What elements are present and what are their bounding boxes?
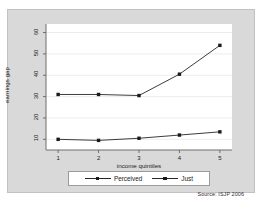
x-tick-label: 4 <box>172 155 186 161</box>
series-marker <box>178 72 181 75</box>
legend-label: Just <box>181 175 193 182</box>
y-tick-label: 10 <box>33 131 39 145</box>
chart-figure: earnings gap 102030405060 12345 income q… <box>0 0 262 200</box>
plot-region <box>46 24 232 150</box>
series-marker <box>137 94 140 97</box>
series-marker <box>178 133 181 136</box>
data-series-layer <box>56 44 221 142</box>
tick-marks <box>43 33 220 153</box>
legend-marker <box>96 177 100 181</box>
y-tick-label: 60 <box>33 25 39 39</box>
chart-legend: PerceivedJust <box>68 171 210 186</box>
series-marker <box>97 93 100 96</box>
y-tick-label: 30 <box>33 89 39 103</box>
x-tick-label: 5 <box>213 155 227 161</box>
plot-svg <box>46 24 232 150</box>
y-axis-title: earnings gap <box>4 50 10 120</box>
series-marker <box>56 93 59 96</box>
y-tick-label: 20 <box>33 110 39 124</box>
legend-key-icon <box>152 175 178 182</box>
x-tick-label: 1 <box>51 155 65 161</box>
series-marker <box>137 137 140 140</box>
legend-marker <box>163 177 167 181</box>
series-marker <box>218 130 221 133</box>
x-axis-title: income quintiles <box>46 162 232 169</box>
gridlines <box>46 33 232 140</box>
legend-key-icon <box>85 175 111 182</box>
legend-entry[interactable]: Perceived <box>85 175 142 182</box>
legend-entry[interactable]: Just <box>152 175 193 182</box>
x-tick-label: 2 <box>92 155 106 161</box>
axis-lines <box>46 24 232 150</box>
series-marker <box>97 139 100 142</box>
y-tick-label: 40 <box>33 67 39 81</box>
source-note: Source: ISJP 2006 <box>197 191 244 197</box>
series-marker <box>56 138 59 141</box>
graph-canvas: earnings gap 102030405060 12345 income q… <box>7 9 255 193</box>
x-tick-label: 3 <box>132 155 146 161</box>
y-tick-label: 50 <box>33 46 39 60</box>
series-marker <box>218 44 221 47</box>
series-line <box>58 45 220 95</box>
legend-label: Perceived <box>114 175 142 182</box>
